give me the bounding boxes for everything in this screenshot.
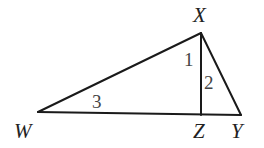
segment-wx [38, 33, 201, 112]
angle-label-3: 3 [92, 91, 102, 112]
vertex-label-z: Z [193, 119, 205, 143]
segment-wy [38, 112, 241, 115]
angle-label-2: 2 [204, 72, 214, 93]
vertex-label-x: X [192, 3, 207, 27]
vertex-label-w: W [14, 119, 34, 143]
angle-label-1: 1 [184, 49, 194, 70]
vertex-label-y: Y [231, 119, 245, 143]
triangle-diagram: X W Z Y 1 2 3 [0, 0, 264, 148]
